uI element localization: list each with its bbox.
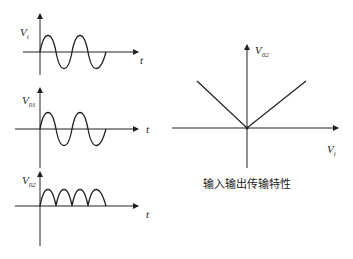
y-axis-label: V01 <box>22 94 36 109</box>
v-shape-curve <box>197 81 306 128</box>
x-axis-label: t <box>140 54 144 66</box>
x-axis-label: Vi <box>327 143 336 158</box>
x-axis-label: t <box>146 208 150 220</box>
y-axis-label: Vi <box>20 26 29 41</box>
output1-waveform-panel: V01 t <box>15 88 150 168</box>
y-axis-label: V02 <box>255 44 269 59</box>
caption: 输入输出传输特性 <box>203 177 291 191</box>
transfer-characteristic-panel: V02 Vi 输入输出传输特性 <box>172 44 338 191</box>
x-axis-label: t <box>146 123 150 135</box>
origin-point <box>245 126 248 129</box>
output2-waveform-panel: V02 t <box>15 172 150 246</box>
rectified-wave <box>40 190 106 207</box>
diagram-canvas: Vi t V01 t V02 t V02 Vi 输入输出传输特性 <box>0 0 353 259</box>
y-axis-label: V02 <box>22 174 36 189</box>
input-waveform-panel: Vi t <box>20 14 144 75</box>
